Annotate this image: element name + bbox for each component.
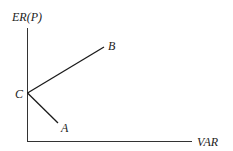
line-c-to-a — [28, 93, 59, 123]
point-a-label: A — [60, 121, 69, 135]
point-c-label: C — [15, 87, 24, 101]
diagram-canvas: ER(P) VAR C A B — [0, 0, 233, 151]
x-axis-label: VAR — [197, 135, 219, 149]
point-b-label: B — [108, 39, 116, 53]
y-axis-label: ER(P) — [11, 10, 42, 24]
line-c-to-b — [28, 47, 105, 93]
